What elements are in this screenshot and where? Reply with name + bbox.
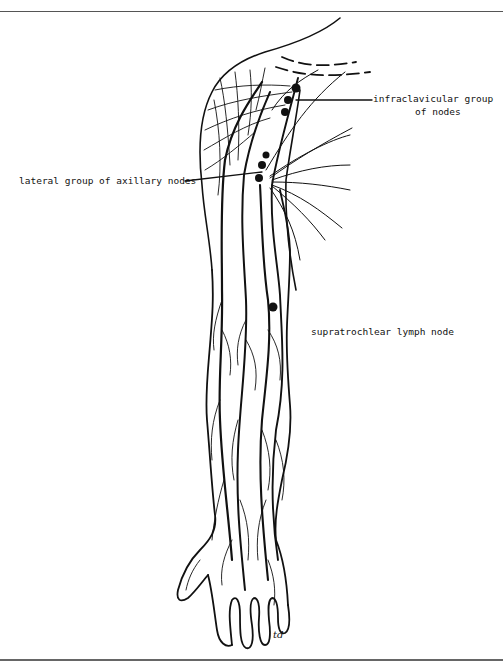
axillary-tributaries xyxy=(266,70,352,260)
arm-outline-lateral xyxy=(177,270,215,600)
label-lateral-axillary: lateral group of axillary nodes xyxy=(19,175,196,187)
axillary-node-1 xyxy=(263,152,270,159)
deltoid-lymphatic-network xyxy=(204,68,292,195)
thumb-outline xyxy=(208,575,232,646)
clavicle-dashed-lower xyxy=(276,67,370,75)
label-supratrochlear: supratrochlear lymph node xyxy=(311,326,454,338)
supratrochlear-node xyxy=(269,303,278,312)
infraclavicular-node-2 xyxy=(284,96,292,104)
artist-signature: td xyxy=(273,629,283,640)
vessel-main-1 xyxy=(220,82,262,560)
infraclavicular-node-1 xyxy=(292,84,301,93)
label-infraclavicular-line2: of nodes xyxy=(415,106,461,118)
axillary-node-3 xyxy=(255,174,263,182)
infraclavicular-node-3 xyxy=(281,108,289,116)
arm-outline-medial xyxy=(275,190,290,605)
vessel-cephalic xyxy=(286,90,300,290)
label-infraclavicular-line1: infraclavicular group xyxy=(373,93,493,105)
finger-index xyxy=(230,598,290,648)
vessel-main-3 xyxy=(260,185,269,580)
vessel-main-4 xyxy=(272,78,298,560)
clavicle-dashed-upper xyxy=(282,57,356,65)
axillary-node-2 xyxy=(258,161,266,169)
